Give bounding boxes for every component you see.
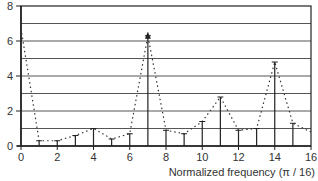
x-tick-label: 6 xyxy=(127,151,133,163)
envelope-line xyxy=(21,29,311,141)
y-tick-label: 8 xyxy=(7,0,13,12)
y-tick-label: 0 xyxy=(7,140,13,152)
x-tick-label: 2 xyxy=(54,151,60,163)
x-tick-label: 16 xyxy=(305,151,317,163)
envelope-dotted-line xyxy=(21,29,311,141)
x-tick-label: 12 xyxy=(232,151,244,163)
x-axis-title: Normalized frequency (π / 16) xyxy=(169,166,315,178)
y-tick-label: 4 xyxy=(7,70,13,82)
y-axis-ticks: 02468 xyxy=(7,0,21,152)
x-axis-ticks: 0246810121416 xyxy=(18,146,317,163)
y-tick-label: 2 xyxy=(7,105,13,117)
x-tick-label: 10 xyxy=(196,151,208,163)
stem-chart: 02468 0246810121416 Normalized frequency… xyxy=(0,0,318,181)
x-tick-label: 8 xyxy=(163,151,169,163)
grid-lines xyxy=(21,24,311,129)
x-tick-label: 0 xyxy=(18,151,24,163)
y-tick-label: 6 xyxy=(7,35,13,47)
x-tick-label: 4 xyxy=(90,151,96,163)
x-tick-label: 14 xyxy=(269,151,281,163)
